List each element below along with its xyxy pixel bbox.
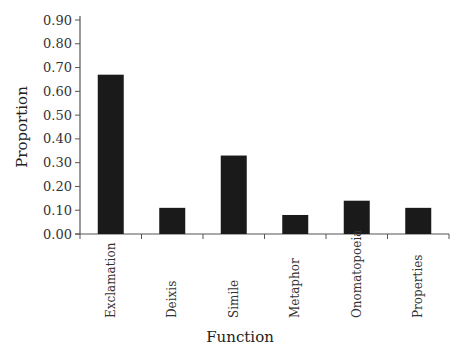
x-axis [75, 234, 449, 239]
y-axis-title: Proportion [13, 86, 31, 168]
x-tick-label: Exclamation [104, 242, 118, 318]
y-tick-label: 0.50 [43, 108, 72, 123]
y-tick-label: 0.80 [43, 36, 72, 51]
y-tick-label: 0.20 [43, 179, 72, 194]
x-tick-label: Simile [227, 280, 241, 318]
x-tick-label: Metaphor [288, 258, 302, 318]
y-tick-label: 0.00 [43, 227, 72, 242]
x-tick-label: Deixis [165, 281, 179, 318]
bar-onomatopoeia [344, 201, 370, 234]
bar-properties [405, 208, 431, 234]
category-labels: ExclamationDeixisSimileMetaphorOnomatopo… [104, 230, 426, 318]
y-tick-label: 0.60 [43, 84, 72, 99]
bar-metaphor [282, 215, 308, 234]
y-tick-label: 0.40 [43, 131, 72, 146]
y-tick-label: 0.70 [43, 60, 72, 75]
y-tick-label: 0.10 [43, 203, 72, 218]
x-axis-title: Function [206, 328, 274, 346]
y-axis: 0.000.100.200.300.400.500.600.700.800.90 [43, 13, 80, 242]
x-tick-label: Properties [411, 255, 425, 318]
x-tick-label: Onomatopoeia [350, 230, 364, 318]
bars [98, 75, 432, 234]
bar-simile [221, 156, 247, 234]
y-tick-label: 0.30 [43, 155, 72, 170]
bar-chart: 0.000.100.200.300.400.500.600.700.800.90… [0, 0, 463, 356]
bar-deixis [159, 208, 185, 234]
y-tick-label: 0.90 [43, 13, 72, 28]
bar-exclamation [98, 75, 124, 234]
